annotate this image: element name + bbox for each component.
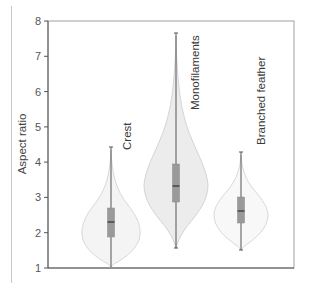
violin-chart: 1 2 3 4 5 6 7 8 Aspect ratio Crest Monof	[0, 0, 309, 283]
violin-crest	[82, 147, 140, 267]
y-tick-8: 8	[35, 15, 41, 27]
y-tick-5: 5	[35, 121, 41, 133]
box-branched-feather	[238, 197, 245, 223]
label-branched-feather: Branched feather	[255, 57, 267, 145]
box-monofilaments	[173, 164, 180, 202]
y-axis-title: Aspect ratio	[16, 114, 28, 175]
label-monofilaments: Monofilaments	[189, 35, 201, 110]
y-tick-3: 3	[35, 191, 41, 203]
y-ticks: 1 2 3 4 5 6 7 8	[35, 15, 48, 274]
violin-branched-feather	[214, 152, 268, 250]
y-tick-7: 7	[35, 50, 41, 62]
label-crest: Crest	[121, 122, 133, 150]
y-tick-4: 4	[35, 156, 41, 168]
y-tick-1: 1	[35, 262, 41, 274]
y-tick-2: 2	[35, 227, 41, 239]
y-tick-6: 6	[35, 86, 41, 98]
